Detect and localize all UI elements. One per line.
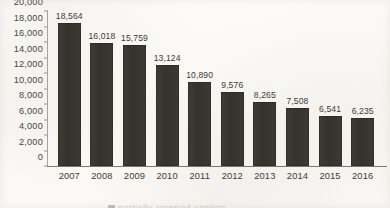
x-axis-tick-label-2011: 2011 bbox=[183, 170, 216, 181]
bar-value-label: 13,124 bbox=[154, 53, 181, 63]
bar-chart-figure: 20,00018,00016,00014,00012,00010,0008,00… bbox=[0, 0, 390, 208]
x-axis-tick-label-2010: 2010 bbox=[151, 170, 184, 181]
bar-value-label: 6,541 bbox=[319, 104, 341, 114]
plot-area: 20,00018,00016,00014,00012,00010,0008,00… bbox=[47, 12, 383, 167]
bar-group[interactable]: 16,018 bbox=[86, 12, 119, 166]
bar-2014[interactable] bbox=[286, 108, 309, 166]
bar-value-label: 7,508 bbox=[286, 96, 308, 106]
bar-group[interactable]: 6,541 bbox=[314, 12, 347, 166]
bar-value-label: 15,759 bbox=[121, 33, 148, 43]
y-axis-tick-label: 0 bbox=[38, 152, 43, 162]
bar-value-label: 18,564 bbox=[56, 11, 83, 21]
x-axis-tick-label-2008: 2008 bbox=[86, 170, 119, 181]
bar-group[interactable]: 7,508 bbox=[281, 12, 314, 166]
y-axis-tick-label: 4,000 bbox=[19, 121, 43, 131]
bar-group[interactable]: 15,759 bbox=[118, 12, 151, 166]
bar-2016[interactable] bbox=[351, 118, 374, 166]
bar-value-label: 8,265 bbox=[254, 90, 276, 100]
x-axis-tick-label-2013: 2013 bbox=[249, 170, 282, 181]
y-axis-tick-label: 12,000 bbox=[14, 59, 43, 69]
caption-remnant-text: partially cropped caption bbox=[118, 203, 226, 208]
bar-value-label: 16,018 bbox=[88, 31, 115, 41]
bar-group[interactable]: 8,265 bbox=[249, 12, 282, 166]
bar-group[interactable]: 6,235 bbox=[346, 12, 379, 166]
x-axis-line bbox=[47, 166, 387, 167]
y-axis-tick-label: 14,000 bbox=[14, 44, 43, 54]
y-axis-tick-label: 6,000 bbox=[19, 106, 43, 116]
bar-2008[interactable] bbox=[90, 43, 113, 166]
bar-value-label: 6,235 bbox=[352, 106, 374, 116]
bar-2012[interactable] bbox=[221, 92, 244, 166]
x-axis-tick-group: 2007200820092010201120122013201420152016 bbox=[47, 170, 383, 181]
bar-group[interactable]: 9,576 bbox=[216, 12, 249, 166]
cropped-caption-remnant: partially cropped caption bbox=[108, 199, 288, 208]
y-axis-tick-label: 20,000 bbox=[14, 0, 43, 7]
bars-row: 18,56416,01815,75913,12410,8909,5768,265… bbox=[47, 12, 383, 166]
y-axis-tick-label: 16,000 bbox=[14, 28, 43, 38]
x-axis-tick-label-2016: 2016 bbox=[346, 170, 379, 181]
x-axis-tick-label-2015: 2015 bbox=[314, 170, 347, 181]
bar-2010[interactable] bbox=[156, 65, 179, 166]
y-axis-tick-label: 10,000 bbox=[14, 75, 43, 85]
x-axis-tick-label-2009: 2009 bbox=[118, 170, 151, 181]
caption-legend-swatch bbox=[108, 205, 115, 208]
bar-2011[interactable] bbox=[188, 82, 211, 166]
bar-2013[interactable] bbox=[253, 102, 276, 166]
y-axis-tick-label: 2,000 bbox=[19, 137, 43, 147]
x-axis-tick-label-2007: 2007 bbox=[53, 170, 86, 181]
bar-value-label: 9,576 bbox=[221, 80, 243, 90]
bar-value-label: 10,890 bbox=[186, 70, 213, 80]
bar-2015[interactable] bbox=[319, 116, 342, 166]
bar-2009[interactable] bbox=[123, 45, 146, 166]
bar-group[interactable]: 18,564 bbox=[53, 12, 86, 166]
y-axis-tick-label: 18,000 bbox=[14, 13, 43, 23]
x-axis-tick-label-2012: 2012 bbox=[216, 170, 249, 181]
bar-group[interactable]: 13,124 bbox=[151, 12, 184, 166]
x-axis-tick-label-2014: 2014 bbox=[281, 170, 314, 181]
bar-2007[interactable] bbox=[58, 23, 81, 166]
y-axis-tick-label: 8,000 bbox=[19, 90, 43, 100]
bar-group[interactable]: 10,890 bbox=[183, 12, 216, 166]
